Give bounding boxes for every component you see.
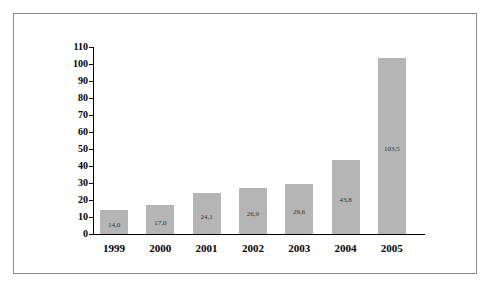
y-tick-label: 40: [58, 161, 88, 171]
x-category-label: 2003: [276, 242, 322, 254]
bar-value-label: 17,0: [140, 219, 180, 227]
x-axis: [93, 234, 425, 235]
bar-value-label: 43,8: [326, 196, 366, 204]
bar-value-label: 14,0: [94, 221, 134, 229]
x-category-label: 2005: [369, 242, 415, 254]
x-category-label: 2000: [137, 242, 183, 254]
x-category-label: 2004: [323, 242, 369, 254]
y-tick-label: 0: [58, 229, 88, 239]
y-axis: [93, 47, 94, 235]
y-tick-label: 20: [58, 195, 88, 205]
x-category-label: 2001: [184, 242, 230, 254]
y-tick-label: 90: [58, 76, 88, 86]
y-tick-label: 30: [58, 178, 88, 188]
y-tick-label: 80: [58, 93, 88, 103]
y-tick-label: 50: [58, 144, 88, 154]
y-tick-label: 110: [58, 42, 88, 52]
bar-value-label: 24,1: [187, 213, 227, 221]
x-category-label: 2002: [230, 242, 276, 254]
x-category-label: 1999: [91, 242, 137, 254]
y-tick-label: 100: [58, 59, 88, 69]
y-tick-label: 70: [58, 110, 88, 120]
bar-value-label: 26,9: [233, 210, 273, 218]
bar-value-label: 29,6: [279, 208, 319, 216]
y-tick-label: 60: [58, 127, 88, 137]
bar-value-label: 103,5: [372, 145, 412, 153]
y-tick-label: 10: [58, 212, 88, 222]
